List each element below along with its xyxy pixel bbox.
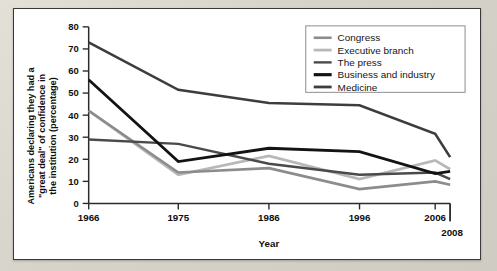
y-tick-label: 40 — [68, 110, 79, 121]
y-tick-label: 0 — [73, 198, 78, 209]
x-axis-title: Year — [259, 238, 280, 249]
y-axis-label-line-2: "great deal" of confidence in — [37, 74, 47, 198]
y-tick-label: 30 — [68, 132, 79, 143]
legend: CongressExecutive branchThe pressBusines… — [306, 26, 465, 93]
legend-label-congress: Congress — [338, 32, 381, 43]
x-tick-group: 196619751986199620062008 — [78, 203, 464, 238]
x-tick-label: 1975 — [167, 212, 189, 223]
y-axis-label-line-3: the institution (percentage) — [48, 77, 58, 194]
legend-label-executive-branch: Executive branch — [338, 45, 414, 56]
y-axis-label: Americans declaring they had a "great de… — [26, 66, 58, 204]
series-line-the-press — [89, 139, 450, 179]
legend-label-business-and-industry: Business and industry — [338, 69, 435, 80]
legend-label-medicine: Medicine — [338, 82, 378, 93]
x-tick-label: 2006 — [424, 212, 446, 223]
y-tick-group: 01020304050607080 — [68, 21, 88, 209]
y-tick-label: 60 — [68, 65, 79, 76]
y-tick-label: 10 — [68, 176, 79, 187]
x-tick-label: 2008 — [441, 227, 463, 238]
chart-panel: Americans declaring they had a "great de… — [13, 8, 481, 260]
y-axis-label-line-1: Americans declaring they had a — [26, 66, 36, 204]
y-tick-label: 80 — [68, 21, 79, 32]
y-tick-label: 70 — [68, 43, 79, 54]
x-tick-label: 1996 — [349, 212, 371, 223]
x-tick-label: 1966 — [78, 212, 100, 223]
y-tick-label: 50 — [68, 87, 79, 98]
legend-box — [306, 26, 465, 92]
figure-root: Americans declaring they had a "great de… — [0, 0, 497, 271]
y-tick-label: 20 — [68, 154, 79, 165]
legend-label-the-press: The press — [338, 57, 382, 68]
series-line-business-and-industry — [89, 80, 450, 174]
line-chart: Americans declaring they had a "great de… — [14, 9, 480, 259]
x-tick-label: 1986 — [258, 212, 280, 223]
